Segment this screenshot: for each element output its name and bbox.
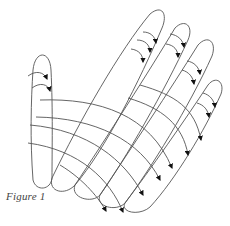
figure-caption: Figure 1 <box>6 190 45 202</box>
finger-loops <box>31 10 222 212</box>
fingertip-arcs <box>28 32 215 117</box>
palm-arcs <box>28 85 201 212</box>
finger-loop-4 <box>124 80 222 212</box>
finger-loop-2 <box>74 24 190 200</box>
thumb-loop <box>31 55 52 188</box>
